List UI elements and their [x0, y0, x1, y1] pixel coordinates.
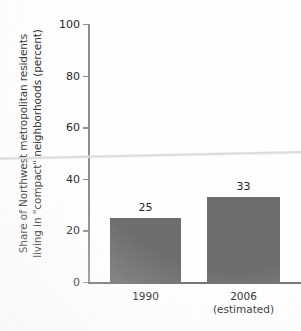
bar-value-1990: 25 — [139, 201, 153, 214]
y-tick-label: 80 — [66, 69, 80, 82]
y-tick-mark — [83, 24, 88, 25]
x-axis-line — [88, 282, 301, 284]
x-category-label-1990: 1990 — [132, 290, 159, 303]
y-tick-mark — [83, 179, 88, 180]
chart-figure: Share of Northwest metropolitan resident… — [0, 0, 301, 331]
y-tick-mark — [83, 230, 88, 231]
y-tick-label: 20 — [66, 224, 80, 237]
y-tick-label: 60 — [66, 121, 80, 134]
bar-group-1990: 25 1990 — [110, 24, 181, 282]
plot-area: 0 20 40 60 80 100 25 1990 — [88, 24, 301, 282]
y-axis-label: Share of Northwest metropolitan resident… — [17, 19, 44, 269]
y-tick-label: 40 — [66, 172, 80, 185]
y-tick-mark — [83, 282, 88, 283]
bar-2006[interactable]: 33 — [207, 197, 280, 282]
bar-value-2006: 33 — [237, 180, 251, 193]
bar-1990[interactable]: 25 — [110, 218, 181, 283]
x-category-label-2006: 2006 (estimated) — [213, 290, 274, 316]
y-tick-mark — [83, 76, 88, 77]
y-tick-mark — [83, 127, 88, 128]
bar-group-2006: 33 2006 (estimated) — [207, 24, 280, 282]
y-axis-line — [88, 24, 90, 283]
y-tick-label: 100 — [59, 18, 80, 31]
y-tick-label: 0 — [73, 276, 80, 289]
y-axis-label-container: Share of Northwest metropolitan resident… — [0, 0, 56, 300]
